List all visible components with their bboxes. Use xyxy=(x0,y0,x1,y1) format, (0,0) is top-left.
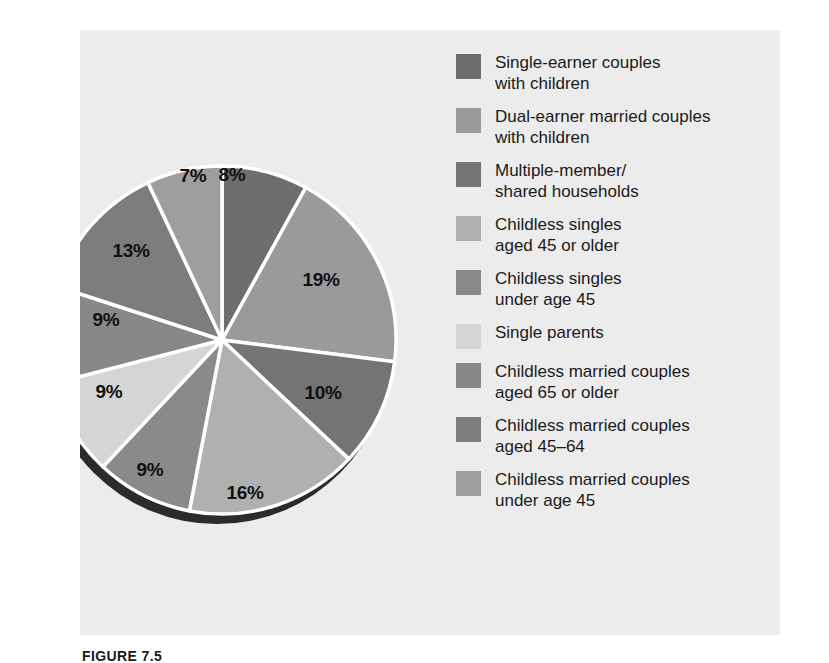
legend-item: Childless married couples aged 45–64 xyxy=(456,415,776,457)
legend-label: Childless married couples aged 45–64 xyxy=(495,415,690,457)
legend-label: Dual-earner married couples with childre… xyxy=(495,106,710,148)
legend-item: Single parents xyxy=(456,322,776,349)
pie-slice-value-label: 9% xyxy=(137,459,164,481)
legend-swatch xyxy=(456,216,481,241)
pie-slice-value-label: 8% xyxy=(219,164,246,186)
pie-slice-value-label: 10% xyxy=(304,382,341,404)
legend-item: Childless singles aged 45 or older xyxy=(456,214,776,256)
pie-chart-svg xyxy=(80,30,460,635)
legend-item: Dual-earner married couples with childre… xyxy=(456,106,776,148)
pie-slice-value-label: 9% xyxy=(93,309,120,331)
legend-label: Childless singles aged 45 or older xyxy=(495,214,622,256)
pie-slice-value-label: 16% xyxy=(226,482,263,504)
pie-slices-group xyxy=(80,166,396,514)
legend-swatch xyxy=(456,471,481,496)
legend-item: Childless married couples under age 45 xyxy=(456,469,776,511)
legend-swatch xyxy=(456,324,481,349)
pie-slice-value-label: 7% xyxy=(180,165,207,187)
figure-caption: FIGURE 7.5 xyxy=(82,648,162,663)
legend-item: Childless singles under age 45 xyxy=(456,268,776,310)
pie-slice-value-label: 13% xyxy=(112,240,149,262)
legend-swatch xyxy=(456,108,481,133)
pie-slice-value-label: 9% xyxy=(96,381,123,403)
legend-label: Multiple-member/ shared households xyxy=(495,160,639,202)
legend-item: Single-earner couples with children xyxy=(456,52,776,94)
legend-label: Childless married couples aged 65 or old… xyxy=(495,361,690,403)
legend-label: Single parents xyxy=(495,322,604,343)
legend-swatch xyxy=(456,54,481,79)
legend-item: Childless married couples aged 65 or old… xyxy=(456,361,776,403)
legend-swatch xyxy=(456,363,481,388)
legend-label: Childless married couples under age 45 xyxy=(495,469,690,511)
legend-swatch xyxy=(456,417,481,442)
figure-root: 8%19%10%16%9%9%9%13%7% Single-earner cou… xyxy=(0,0,829,663)
legend: Single-earner couples with childrenDual-… xyxy=(456,52,776,523)
legend-item: Multiple-member/ shared households xyxy=(456,160,776,202)
legend-label: Childless singles under age 45 xyxy=(495,268,622,310)
pie-chart-area: 8%19%10%16%9%9%9%13%7% xyxy=(80,30,460,635)
legend-label: Single-earner couples with children xyxy=(495,52,660,94)
legend-swatch xyxy=(456,162,481,187)
pie-slice-value-label: 19% xyxy=(302,269,339,291)
legend-swatch xyxy=(456,270,481,295)
